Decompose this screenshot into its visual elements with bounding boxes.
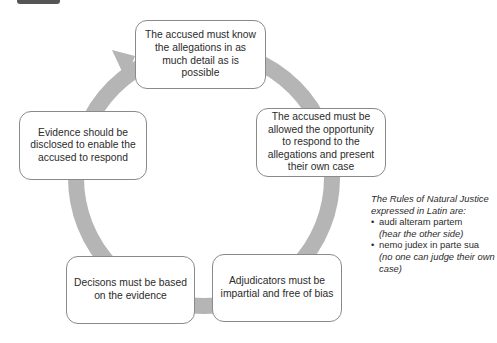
box-left-text: Evidence should be disclosed to enable t… <box>26 127 140 165</box>
box-bottom-left: Decisons must be based on the evidence <box>66 256 195 324</box>
box-top: The accused must know the allegations in… <box>135 20 266 89</box>
note-translation: (hear the other side) <box>379 228 497 240</box>
note-item: • audi alteram partem (hear the other si… <box>371 216 497 239</box>
note-latin: audi alteram partem <box>379 216 462 227</box>
bullet-icon: • <box>371 216 374 228</box>
box-bottom-right-text: Adjudicators must be impartial and free … <box>219 275 335 300</box>
latin-note: The Rules of Natural Justice expressed i… <box>371 193 497 274</box>
box-right: The accused must be allowed the opportun… <box>256 108 386 177</box>
bullet-icon: • <box>371 239 374 251</box>
box-bottom-left-text: Decisons must be based on the evidence <box>73 277 188 302</box>
note-item: • nemo judex in parte sua (no one can ju… <box>371 239 497 274</box>
box-right-text: The accused must be allowed the opportun… <box>263 111 379 174</box>
note-intro: The Rules of Natural Justice expressed i… <box>371 193 497 216</box>
note-list: • audi alteram partem (hear the other si… <box>371 216 497 274</box>
box-bottom-right: Adjudicators must be impartial and free … <box>212 254 342 322</box>
note-translation: (no one can judge their own case) <box>379 251 497 274</box>
note-latin: nemo judex in parte sua <box>379 239 479 250</box>
box-left: Evidence should be disclosed to enable t… <box>19 111 147 180</box>
box-top-text: The accused must know the allegations in… <box>142 29 259 79</box>
